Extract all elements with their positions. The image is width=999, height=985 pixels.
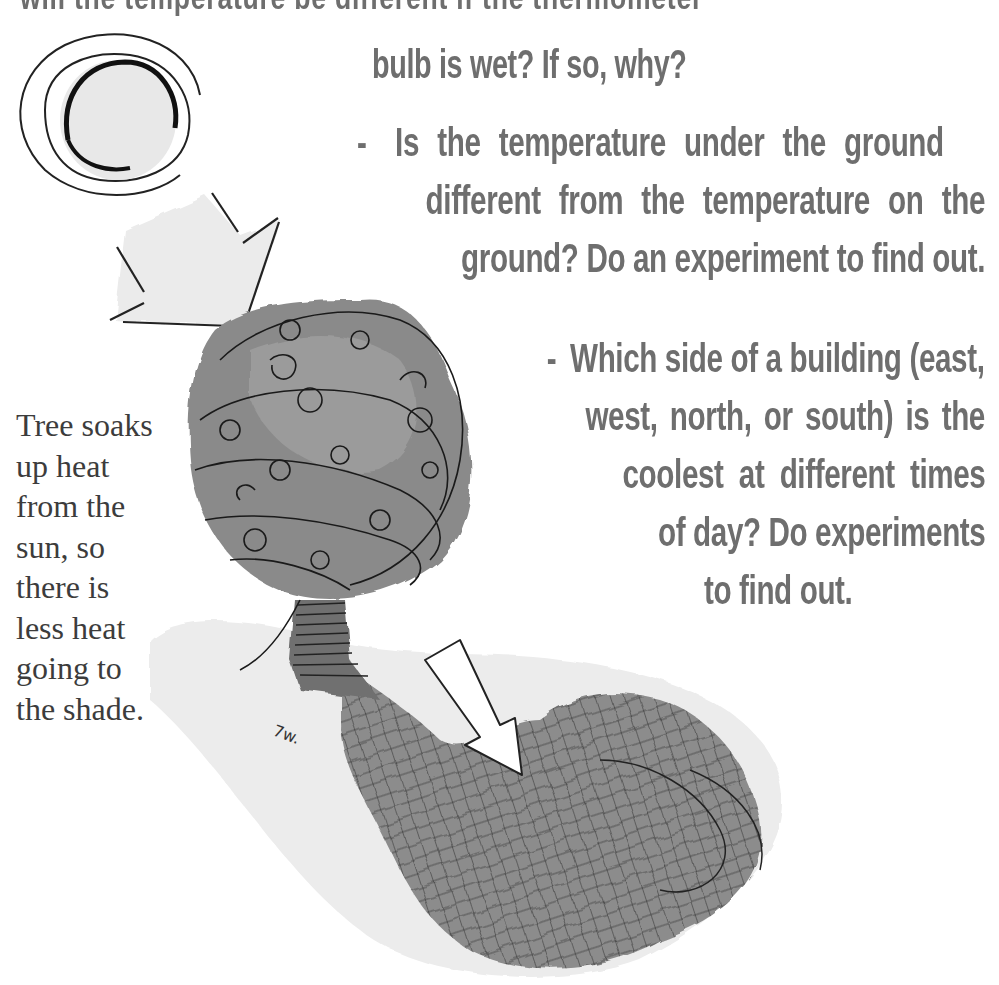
question-line: - Which side of a building (east,: [547, 338, 985, 378]
question-line-text: Which side of a building (east,: [571, 336, 985, 380]
question-wet-bulb: bulb is wet? If so, why?: [372, 44, 687, 84]
caption-line: from the: [16, 486, 216, 527]
caption-line: sun, so: [16, 527, 216, 568]
question-line: Is the temperature under the ground: [395, 120, 944, 164]
bullet-dash: - Is the temperature under the ground: [357, 122, 993, 162]
caption-line: the shade.: [16, 689, 216, 730]
book-page: will the temperature be different if the…: [0, 0, 999, 985]
caption-line: going to: [16, 648, 216, 689]
caption-line: there is: [16, 567, 216, 608]
question-line: of day? Do experiments: [658, 512, 985, 552]
caption-line: less heat: [16, 608, 216, 649]
question-line: coolest at different times: [622, 454, 985, 494]
illustration-caption: Tree soaks up heat from the sun, so ther…: [16, 405, 216, 729]
caption-line: up heat: [16, 446, 216, 487]
question-line: west, north, or south) is the: [585, 396, 985, 436]
question-line: ground? Do an experiment to find out.: [461, 238, 985, 278]
question-line: to find out.: [704, 570, 852, 610]
question-line: different from the temperature on the: [426, 180, 985, 220]
bullet-marker: -: [547, 336, 556, 380]
heat-arrow-icon: [110, 193, 280, 326]
bullet-marker: -: [357, 120, 366, 164]
caption-line: Tree soaks: [16, 405, 216, 446]
sun-icon: [20, 34, 200, 195]
